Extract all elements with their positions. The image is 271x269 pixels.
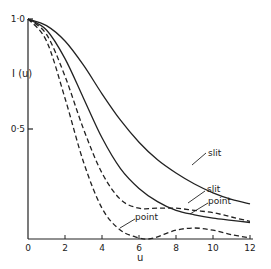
x-tick-label: 4	[99, 243, 105, 253]
curve-annotation: point	[208, 196, 231, 206]
x-tick-label: 8	[173, 243, 179, 253]
curve-annotation: slit	[208, 148, 222, 158]
intensity-chart: 0246810120·51·0 slitslitpointpoint I (u)…	[0, 0, 271, 269]
y-axis-label: I (u)	[12, 68, 32, 79]
x-tick-label: 10	[207, 243, 219, 253]
curves	[28, 19, 250, 239]
annotations: slitslitpointpoint	[120, 148, 231, 228]
curve-annotation: slit	[207, 184, 221, 194]
y-tick-label: 0·5	[11, 124, 25, 134]
solid-curve	[28, 19, 250, 204]
x-tick-label: 2	[62, 243, 68, 253]
x-tick-label: 12	[244, 243, 255, 253]
tick-labels: 0246810120·51·0	[11, 14, 256, 253]
x-axis-label: u	[137, 252, 143, 263]
curve-annotation: point	[135, 212, 158, 222]
y-tick-label: 1·0	[11, 14, 26, 24]
x-tick-label: 0	[25, 243, 31, 253]
